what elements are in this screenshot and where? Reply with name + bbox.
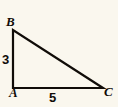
side-length-label-vertical: 3: [2, 53, 9, 66]
right-triangle-figure: B A C 3 5: [0, 0, 118, 107]
vertex-label-c: C: [104, 85, 113, 98]
vertex-label-b: B: [6, 15, 15, 28]
vertex-label-a: A: [9, 86, 18, 99]
triangle-outline: [13, 30, 103, 88]
side-length-label-horizontal: 5: [49, 91, 56, 104]
